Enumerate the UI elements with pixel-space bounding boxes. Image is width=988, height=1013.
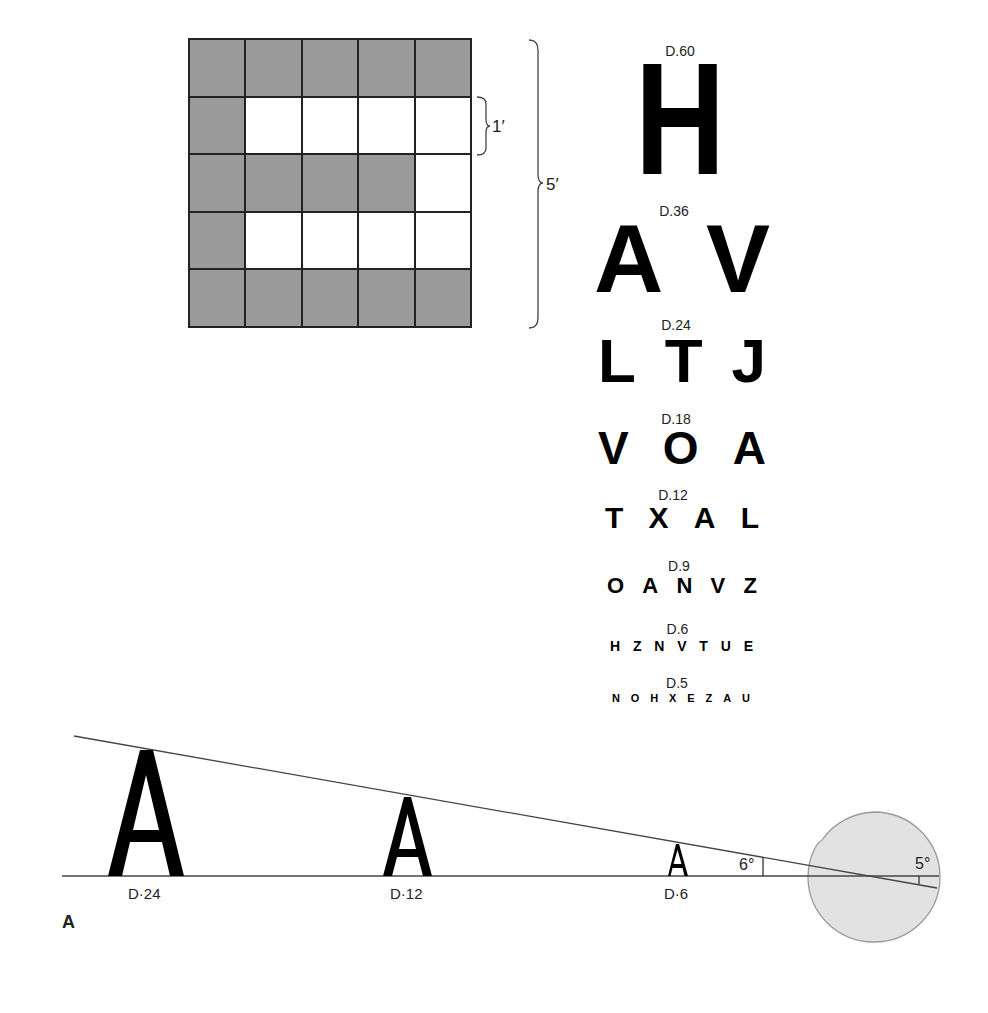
letter-a-large-icon bbox=[108, 750, 184, 876]
letter-label-d12: D·12 bbox=[390, 886, 423, 901]
visual-ray bbox=[74, 736, 937, 888]
letter-label-d6: D·6 bbox=[664, 886, 688, 901]
letter-a-small-icon bbox=[668, 844, 688, 876]
letter-a-medium-icon bbox=[383, 797, 432, 876]
letter-label-d24: D·24 bbox=[128, 886, 161, 901]
angle-label-outside: 6° bbox=[739, 857, 754, 873]
visual-angle-diagram bbox=[0, 0, 988, 1013]
figure: 1′ 5′ D.60 H D.36 A V D.24 L T J D.18 V … bbox=[0, 0, 988, 1013]
panel-label: A bbox=[62, 913, 75, 931]
angle-label-inside: 5° bbox=[915, 856, 930, 872]
